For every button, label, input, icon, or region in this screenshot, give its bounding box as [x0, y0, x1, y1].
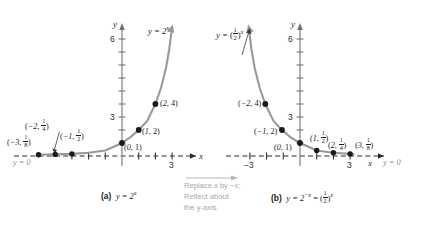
asymptote-label-b: y = 0 [383, 159, 401, 167]
point-label-b-4: (2, 14) [328, 137, 346, 151]
caption-b: (b) y = 2−x = (12)x [271, 190, 333, 205]
point-a-2 [69, 151, 74, 156]
point-b-0 [262, 101, 268, 107]
y-axis-arrow-b [297, 23, 302, 30]
x-axis-arrow-a [190, 153, 196, 159]
y-axis-arrow-a [119, 23, 124, 30]
point-label-b-1: (−1, 2) [254, 128, 277, 136]
y-tick-label-a-3: 3 [110, 113, 115, 121]
point-label-a-2: (−1, 12) [60, 128, 84, 142]
y-axis-label-b: y [291, 20, 295, 29]
asymptote-label-a: y = 0 [13, 159, 31, 167]
x-tick-label-b-neg3: −3 [244, 161, 254, 169]
curve-label-b: y = (12)x [216, 26, 243, 41]
x-axis-label-a: x [199, 152, 203, 161]
point-a-1 [53, 152, 58, 157]
point-label-b-2: (0, 1) [274, 144, 292, 152]
point-b-5 [347, 151, 352, 156]
point-b-2 [297, 140, 303, 146]
curve-label-a: y = 2x [148, 25, 169, 35]
point-label-a-4: (1, 2) [142, 128, 160, 136]
point-label-a-3: (0, 1) [124, 144, 142, 152]
point-label-b-0: (−2, 4) [238, 100, 261, 108]
point-a-5 [153, 101, 159, 107]
point-label-a-0: (−3, 18) [7, 134, 31, 148]
y-axis-label-a: y [113, 20, 117, 29]
point-b-3 [314, 148, 319, 153]
point-label-b-3: (1, 12) [310, 130, 328, 144]
x-axis-label-b: x [368, 159, 372, 168]
figure-container: x y 3 3 6 y = 0 y = 2x (−3, 18) (−2, 14) [0, 0, 432, 237]
point-label-a-1: (−2, 14) [25, 118, 49, 132]
point-label-b-5: (3, 18) [355, 137, 373, 151]
caption-a: (a) y = 2x [101, 190, 136, 201]
y-tick-label-a-6: 6 [110, 35, 115, 43]
point-a-4 [136, 127, 142, 133]
y-tick-label-b-3: 3 [288, 113, 293, 121]
panel-b: x y −3 3 3 6 y = 0 y = (12)x (−2, 4) [216, 0, 432, 237]
point-a-0 [36, 152, 41, 157]
x-tick-label-a-3: 3 [169, 161, 174, 169]
leader-line-a [54, 132, 60, 152]
y-tick-label-b-6: 6 [288, 35, 293, 43]
x-tick-label-b-3: 3 [347, 161, 352, 169]
point-b-1 [279, 127, 285, 133]
point-label-a-5: (2, 4) [160, 100, 178, 108]
